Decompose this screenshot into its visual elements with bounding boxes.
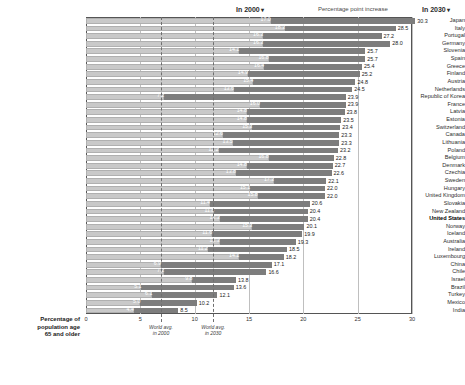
- row-label: Poland: [382, 147, 465, 155]
- table-row: Poland12.223.2: [0, 147, 465, 155]
- population-aging-bar-chart: Japan17.030.3Italy18.328.5Portugal16.327…: [0, 0, 465, 385]
- value-in-2030: 23.5: [341, 117, 354, 123]
- row-label: Portugal: [382, 32, 465, 40]
- axis-tick-30: 30: [402, 316, 422, 322]
- table-row: Mexico5.010.2: [0, 299, 465, 307]
- value-in-2000: 14.8: [86, 116, 248, 122]
- value-in-2030: 22.6: [332, 170, 345, 176]
- value-in-2030: 16.6: [266, 269, 279, 275]
- value-in-2030: 13.6: [234, 284, 247, 290]
- row-label: Lithuania: [382, 139, 465, 147]
- segment-increase: [220, 239, 296, 245]
- caret-icon: ▾: [260, 7, 265, 13]
- value-in-2000: 11.2: [86, 246, 209, 252]
- row-label: Netherlands: [382, 86, 465, 94]
- row-label: Estonia: [382, 116, 465, 124]
- segment-increase: [274, 178, 326, 184]
- row-label: Hungary: [382, 185, 465, 193]
- table-row: Finland14.925.2: [0, 70, 465, 78]
- value-in-2000: 4.4: [86, 307, 135, 313]
- value-in-2000: 16.4: [86, 63, 266, 69]
- table-row: Greece16.425.4: [0, 63, 465, 71]
- value-in-2030: 25.4: [362, 63, 375, 69]
- row-label: China: [382, 261, 465, 269]
- value-in-2000: 14.1: [86, 47, 241, 53]
- value-in-2030: 19.3: [296, 239, 309, 245]
- axis-tick-10: 10: [185, 316, 205, 322]
- legend-in-2030: In 2030 ▾: [422, 6, 450, 18]
- value-in-2030: 23.9: [346, 101, 359, 107]
- value-in-2030: 20.1: [304, 223, 317, 229]
- table-row: Norway15.320.1: [0, 223, 465, 231]
- axis-title: Percentage of population age 65 and olde…: [2, 316, 80, 339]
- value-in-2030: 30.3: [415, 18, 428, 24]
- value-in-2000: 9.8: [86, 276, 194, 282]
- value-in-2030: 13.8: [236, 277, 249, 283]
- segment-increase: [247, 163, 333, 169]
- segment-increase: [271, 18, 416, 24]
- value-in-2000: 12.2: [86, 147, 220, 153]
- value-in-2000: 15.8: [86, 192, 259, 198]
- table-row: Sweden17.322.1: [0, 177, 465, 185]
- value-in-2000: 11.8: [86, 208, 216, 214]
- axis-tick-25: 25: [348, 316, 368, 322]
- value-in-2000: 5.1: [86, 284, 143, 290]
- value-in-2030: 25.7: [365, 48, 378, 54]
- table-row: Switzerland15.323.4: [0, 124, 465, 132]
- segment-increase: [212, 231, 302, 237]
- value-in-2030: 18.2: [284, 254, 297, 260]
- value-in-2000: 15.3: [86, 124, 254, 130]
- row-label: Finland: [382, 70, 465, 78]
- table-row: United Kingdom15.822.0: [0, 192, 465, 200]
- value-in-2030: 20.4: [308, 208, 321, 214]
- value-in-2000: 16.3: [86, 32, 265, 38]
- segment-increase: [247, 117, 342, 123]
- value-in-2030: 22.8: [334, 155, 347, 161]
- segment-increase: [219, 148, 339, 154]
- row-label: Czechia: [382, 169, 465, 177]
- row-label: Austria: [382, 78, 465, 86]
- row-label: New Zealand: [382, 208, 465, 216]
- row-label: Switzerland: [382, 124, 465, 132]
- segment-increase: [263, 41, 390, 47]
- row-label: Canada: [382, 131, 465, 139]
- table-row: Czechia13.822.6: [0, 169, 465, 177]
- row-label: United States: [382, 215, 465, 223]
- segment-increase: [234, 87, 352, 93]
- segment-increase: [285, 26, 396, 32]
- value-in-2030: 23.8: [345, 109, 358, 115]
- value-in-2000: 11.4: [86, 200, 211, 206]
- axis-tick-5: 5: [130, 316, 150, 322]
- value-in-2030: 17.1: [272, 261, 285, 267]
- value-in-2030: 23.9: [346, 94, 359, 100]
- row-label: Israel: [382, 276, 465, 284]
- value-in-2000: 7.2: [86, 268, 166, 274]
- value-in-2000: 17.3: [86, 177, 275, 183]
- value-in-2030: 20.6: [310, 200, 323, 206]
- value-in-2030: 20.4: [308, 216, 321, 222]
- segment-increase: [210, 201, 310, 207]
- segment-increase: [161, 262, 272, 268]
- reference-line-2: [213, 17, 214, 322]
- row-label: Latvia: [382, 108, 465, 116]
- segment-increase: [152, 292, 217, 298]
- segment-increase: [253, 79, 355, 85]
- row-label: India: [382, 307, 465, 315]
- table-row: Republic of Korea7.223.9: [0, 93, 465, 101]
- table-row: Luxembourg14.118.2: [0, 253, 465, 261]
- row-label: Luxembourg: [382, 253, 465, 261]
- axis-tick-15: 15: [239, 316, 259, 322]
- value-in-2030: 22.7: [333, 162, 346, 168]
- segment-increase: [208, 247, 287, 253]
- row-label: France: [382, 101, 465, 109]
- row-label: Greece: [382, 63, 465, 71]
- value-in-2000: 14.8: [86, 162, 248, 168]
- row-label: Denmark: [382, 162, 465, 170]
- legend-increase: Percentage point increase: [318, 6, 388, 18]
- table-row: India4.48.5: [0, 307, 465, 315]
- row-label: Republic of Korea: [382, 93, 465, 101]
- segment-increase: [269, 56, 366, 62]
- table-row: France16.023.9: [0, 101, 465, 109]
- table-row: Australia12.319.3: [0, 238, 465, 246]
- value-in-2030: 22.0: [325, 185, 338, 191]
